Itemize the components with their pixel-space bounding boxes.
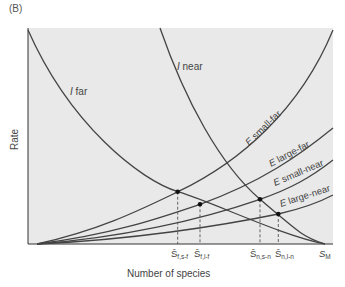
label-i-near: I near (177, 61, 203, 72)
equilibrium-dot-nsn (258, 197, 263, 202)
tick-label-nln: Ŝn,l-n (275, 248, 294, 260)
chart: I far I near E small-far E large-far E s… (0, 0, 345, 287)
label-i-far: I far (70, 86, 88, 97)
equilibrium-dot-flf (198, 202, 203, 207)
tick-label-fsf: Ŝf,s-f (171, 248, 188, 260)
tick-label-sm: SM (319, 248, 331, 260)
y-axis-title: Rate (9, 128, 20, 150)
equilibrium-dot-nln (276, 212, 281, 217)
x-axis-title: Number of species (127, 268, 210, 279)
equilibrium-dot-fsf (175, 189, 180, 194)
tick-label-nsn: Ŝn,s-n (250, 248, 271, 260)
tick-label-flf: Ŝf,l-f (194, 248, 210, 260)
